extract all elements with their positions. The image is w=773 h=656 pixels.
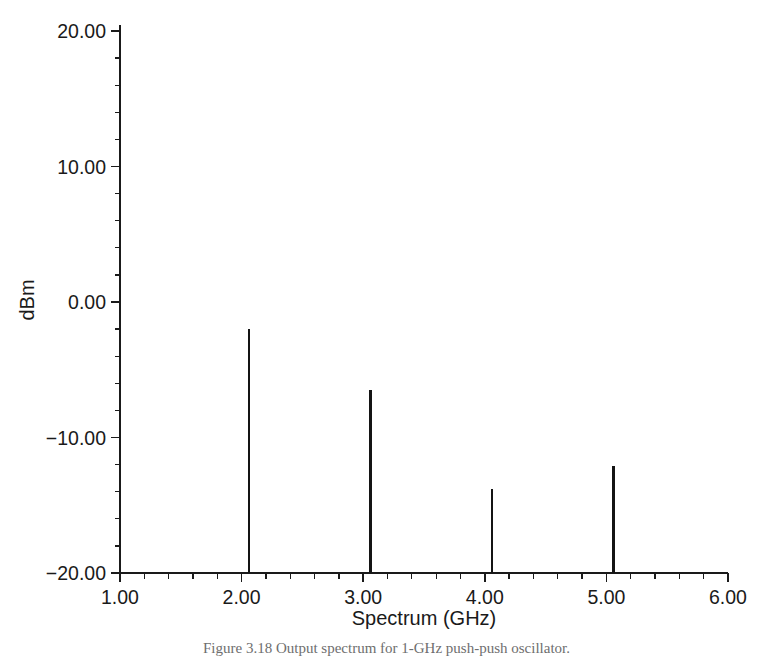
y-tick-label: 20.00 (57, 20, 106, 42)
y-tick-label: 10.00 (57, 156, 106, 178)
x-axis-ticks (120, 573, 728, 582)
x-tick-label: 6.00 (709, 586, 747, 608)
y-axis-ticks (111, 31, 120, 573)
y-tick-label: −20.00 (46, 562, 106, 584)
figure-caption: Figure 3.18 Output spectrum for 1-GHz pu… (0, 640, 773, 656)
spectrum-spikes (249, 329, 614, 573)
y-tick-label: −10.00 (46, 427, 106, 449)
figure-container: 20.0010.000.00−10.00−20.00 1.002.003.004… (0, 0, 773, 656)
x-tick-label: 3.00 (344, 586, 382, 608)
x-tick-label: 1.00 (101, 586, 139, 608)
x-tick-label: 5.00 (587, 586, 625, 608)
x-axis-title: Spectrum (GHz) (352, 607, 496, 629)
x-axis-tick-labels: 1.002.003.004.005.006.00 (101, 586, 747, 608)
axes-group (120, 25, 728, 581)
y-axis-title: dBm (16, 279, 38, 320)
figure-caption-clip: Figure 3.18 Output spectrum for 1-GHz pu… (0, 640, 773, 656)
y-tick-label: 0.00 (68, 291, 106, 313)
y-axis-tick-labels: 20.0010.000.00−10.00−20.00 (46, 20, 106, 584)
x-tick-label: 2.00 (223, 586, 261, 608)
spectrum-chart: 20.0010.000.00−10.00−20.00 1.002.003.004… (0, 0, 773, 656)
x-tick-label: 4.00 (466, 586, 504, 608)
